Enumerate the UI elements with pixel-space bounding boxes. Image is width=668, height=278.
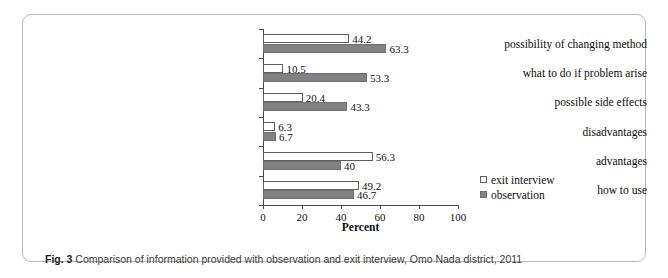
chart-legend: exit interview observation: [480, 172, 555, 202]
bar-value-label: 53.3: [370, 73, 389, 83]
bar-exit-interview: [263, 34, 349, 43]
bar-observation: [263, 190, 354, 199]
bar-value-label: 46.7: [357, 190, 376, 200]
legend-item-observation: observation: [480, 187, 555, 202]
x-axis-tick: [380, 205, 381, 209]
y-axis-tick: [259, 117, 263, 118]
y-axis-tick: [259, 176, 263, 177]
legend-label-exit-interview: exit interview: [491, 174, 555, 186]
y-axis-tick: [259, 88, 263, 89]
legend-swatch-observation: [480, 191, 487, 198]
figure-caption-number: Fig. 3: [45, 253, 72, 265]
figure-caption-text: Comparison of information provided with …: [75, 253, 522, 265]
bar-exit-interview: [263, 93, 303, 102]
bar-observation: [263, 102, 347, 111]
bar-value-label: 20.4: [306, 93, 325, 103]
x-axis-tick: [419, 205, 420, 209]
legend-item-exit-interview: exit interview: [480, 172, 555, 187]
x-axis-tick: [458, 205, 459, 209]
bar-exit-interview: [263, 181, 359, 190]
x-axis-tick: [302, 205, 303, 209]
bar-value-label: 44.2: [352, 34, 371, 44]
x-axis-title: Percent: [263, 221, 458, 233]
legend-swatch-exit-interview: [480, 176, 487, 183]
bar-exit-interview: [263, 152, 373, 161]
plot-region: 020406080100 44.263.310.553.320.443.36.3…: [263, 29, 458, 205]
figure-card: possibility of changing methodwhat to do…: [22, 14, 646, 262]
y-axis-line: [263, 29, 264, 205]
x-axis-tick: [263, 205, 264, 209]
bar-observation: [263, 73, 367, 82]
x-axis-tick: [341, 205, 342, 209]
bar-value-label: 63.3: [389, 44, 408, 54]
y-axis-tick: [259, 58, 263, 59]
bar-value-label: 43.3: [350, 102, 369, 112]
bar-observation: [263, 161, 341, 170]
bar-value-label: 40: [344, 161, 355, 171]
legend-label-observation: observation: [491, 189, 545, 201]
y-axis-tick: [259, 146, 263, 147]
bar-value-label: 10.5: [286, 64, 305, 74]
bar-exit-interview: [263, 122, 275, 131]
bar-exit-interview: [263, 64, 283, 73]
bar-observation: [263, 44, 386, 53]
bar-value-label: 56.3: [376, 152, 395, 162]
bar-observation: [263, 132, 276, 141]
caption-divider: [23, 234, 647, 235]
y-axis-tick: [259, 29, 263, 30]
bar-value-label: 6.7: [279, 132, 293, 142]
x-axis-line: [263, 205, 458, 206]
chart-area: possibility of changing methodwhat to do…: [23, 15, 647, 220]
figure-caption: Fig. 3 Comparison of information provide…: [45, 253, 645, 265]
